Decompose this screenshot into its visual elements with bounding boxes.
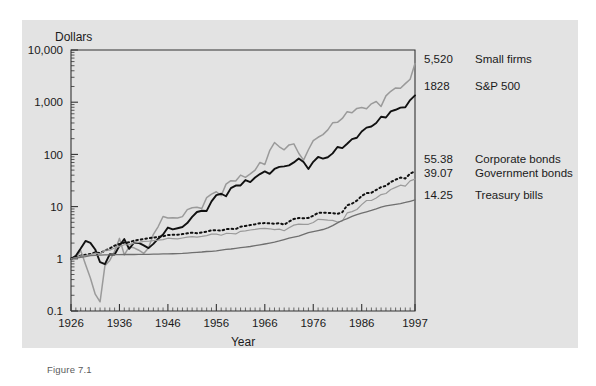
legend-label: Government bonds — [475, 167, 573, 179]
x-axis-tick-label: 1926 — [58, 317, 84, 329]
legend-value: 5,520 — [424, 53, 453, 65]
x-axis-title: Year — [231, 335, 255, 349]
plot-frame — [71, 50, 415, 311]
investment-growth-chart: 0.11101001,00010,00019261936194619561966… — [0, 0, 596, 386]
legend-value: 14.25 — [424, 189, 453, 201]
y-axis-tick-label: 1 — [57, 253, 63, 265]
x-axis-tick-label: 1986 — [349, 317, 375, 329]
legend-value: 55.38 — [424, 153, 453, 165]
y-axis-title: Dollars — [55, 30, 92, 44]
legend-label: S&P 500 — [475, 80, 520, 92]
x-axis-tick-label: 1976 — [300, 317, 326, 329]
y-axis-tick-label: 0.1 — [47, 305, 63, 317]
y-axis-tick-label: 10,000 — [28, 44, 63, 56]
legend-value: 1828 — [424, 80, 450, 92]
series-line-s-p-500 — [71, 95, 415, 264]
x-axis-tick-label: 1966 — [252, 317, 278, 329]
y-axis-tick-label: 100 — [44, 149, 63, 161]
x-axis-tick-label: 1956 — [204, 317, 230, 329]
x-axis-tick-label: 1946 — [155, 317, 181, 329]
y-axis-tick-label: 1,000 — [34, 96, 63, 108]
x-axis-tick-label: 1936 — [107, 317, 133, 329]
figure-caption: Figure 7.1 — [47, 364, 92, 375]
legend-label: Small firms — [475, 53, 532, 65]
y-axis-tick-label: 10 — [50, 201, 63, 213]
x-axis-tick-label: 1997 — [402, 317, 428, 329]
figure-container: 0.11101001,00010,00019261936194619561966… — [0, 0, 596, 386]
legend-label: Corporate bonds — [475, 153, 561, 165]
legend-label: Treasury bills — [475, 189, 543, 201]
legend-value: 39.07 — [424, 167, 453, 179]
